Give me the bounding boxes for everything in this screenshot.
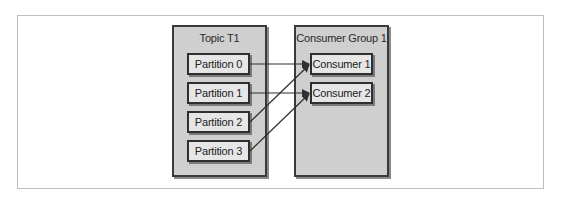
partition-3: Partition 3 bbox=[187, 140, 250, 162]
consumer-1: Consumer 1 bbox=[310, 53, 373, 75]
partition-2: Partition 2 bbox=[187, 111, 250, 133]
consumer-2: Consumer 2 bbox=[310, 82, 373, 104]
partition-1: Partition 1 bbox=[187, 82, 250, 104]
partition-0: Partition 0 bbox=[187, 53, 250, 75]
topic-title: Topic T1 bbox=[174, 32, 265, 44]
consumer-group-title: Consumer Group 1 bbox=[296, 32, 387, 44]
diagram-frame bbox=[17, 15, 544, 189]
